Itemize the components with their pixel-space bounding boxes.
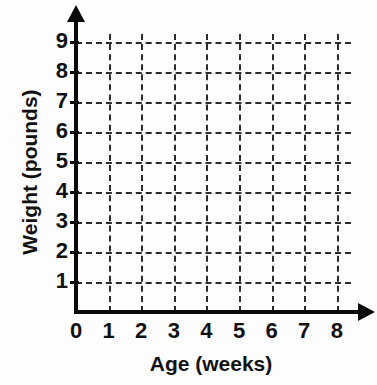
y-axis-tick-mark [70, 221, 79, 224]
y-axis-tick-label: 3 [56, 210, 68, 232]
x-axis-line [74, 310, 365, 314]
gridline-horizontal [76, 162, 351, 164]
x-axis-tick-label: 8 [317, 320, 357, 342]
y-axis-tick-label: 8 [56, 60, 68, 82]
y-axis-tick-label: 6 [56, 120, 68, 142]
y-axis-tick-label: 9 [56, 30, 68, 52]
x-axis-title: Age (weeks) [66, 352, 356, 376]
x-axis-arrow-icon [358, 303, 375, 321]
gridline-vertical [206, 34, 208, 312]
gridline-horizontal [76, 282, 351, 284]
y-axis-title: Weight (pounds) [18, 62, 42, 282]
gridline-vertical [174, 34, 176, 312]
y-axis-tick-mark [70, 101, 79, 104]
gridline-vertical [272, 34, 274, 312]
y-axis-tick-label: 4 [56, 180, 68, 202]
gridline-horizontal [76, 222, 351, 224]
y-axis-tick-mark [70, 161, 79, 164]
y-axis-tick-mark [70, 41, 79, 44]
gridline-horizontal [76, 192, 351, 194]
y-axis-tick-label: 5 [56, 150, 68, 172]
y-axis-line [74, 18, 78, 314]
plot-area [76, 34, 351, 312]
gridline-horizontal [76, 72, 351, 74]
y-axis-tick-label: 7 [56, 90, 68, 112]
y-axis-tick-mark [70, 131, 79, 134]
y-axis-tick-mark [70, 71, 79, 74]
gridline-vertical [109, 34, 111, 312]
gridline-horizontal [76, 252, 351, 254]
coordinate-grid-figure: 987654321 012345678 Weight (pounds) Age … [0, 0, 377, 385]
gridline-vertical [239, 34, 241, 312]
y-axis-tick-label: 2 [56, 240, 68, 262]
y-axis-tick-label: 1 [56, 270, 68, 292]
gridline-horizontal [76, 132, 351, 134]
gridline-horizontal [76, 42, 351, 44]
gridline-vertical [141, 34, 143, 312]
y-axis-tick-mark [70, 191, 79, 194]
y-axis-arrow-icon [67, 5, 85, 22]
gridline-vertical [337, 34, 339, 312]
y-axis-tick-mark [70, 251, 79, 254]
y-axis-tick-mark [70, 281, 79, 284]
gridline-vertical [304, 34, 306, 312]
gridline-horizontal [76, 102, 351, 104]
